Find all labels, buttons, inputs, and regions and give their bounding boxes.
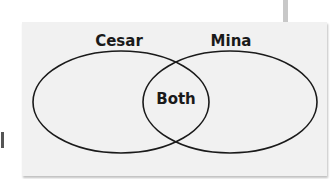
set-label-mina: Mina xyxy=(211,32,252,50)
intersection-label-both: Both xyxy=(156,90,196,108)
set-label-cesar: Cesar xyxy=(95,32,143,50)
venn-diagram: Cesar Mina Both xyxy=(0,0,332,179)
